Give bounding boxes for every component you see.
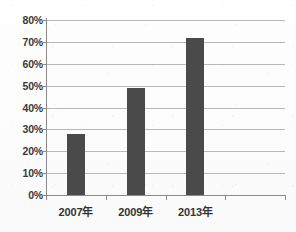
y-axis-tick-mark (42, 151, 47, 152)
bar[interactable] (186, 38, 204, 196)
y-axis-tick-label: 50% (0, 80, 43, 92)
gridline (46, 20, 285, 21)
bar-chart: 0%10%20%30%40%50%60%70%80% 2007年2009年201… (0, 0, 296, 232)
y-axis-tick-mark (42, 173, 47, 174)
x-axis-category-label: 2013年 (178, 203, 213, 219)
y-axis-tick-mark (42, 108, 47, 109)
y-axis-tick-mark (42, 86, 47, 87)
y-axis-tick-mark (42, 129, 47, 130)
bar[interactable] (127, 88, 145, 195)
y-axis-tick-label: 0% (0, 189, 43, 201)
y-axis-tick-mark (42, 42, 47, 43)
gridline (46, 64, 285, 65)
plot-area (46, 20, 285, 195)
bar[interactable] (67, 134, 85, 195)
gridline (46, 129, 285, 130)
x-axis-category-label: 2007年 (58, 203, 93, 219)
x-axis-tick-mark (106, 195, 107, 200)
y-axis-tick-label: 60% (0, 58, 43, 70)
x-axis-tick-mark (166, 195, 167, 200)
gridline (46, 108, 285, 109)
gridline (46, 86, 285, 87)
y-axis-tick-label: 80% (0, 14, 43, 26)
x-axis-tick-mark (285, 195, 286, 200)
y-axis-tick-mark (42, 64, 47, 65)
y-axis-tick-label: 40% (0, 102, 43, 114)
y-axis-tick-label: 30% (0, 123, 43, 135)
y-axis-tick-mark (42, 20, 47, 21)
y-axis-tick-label: 20% (0, 145, 43, 157)
x-axis-category-label: 2009年 (118, 203, 153, 219)
y-axis-tick-label: 70% (0, 36, 43, 48)
y-axis-tick-label: 10% (0, 167, 43, 179)
x-axis-tick-mark (225, 195, 226, 200)
x-axis-tick-mark (46, 195, 47, 200)
gridline (46, 42, 285, 43)
